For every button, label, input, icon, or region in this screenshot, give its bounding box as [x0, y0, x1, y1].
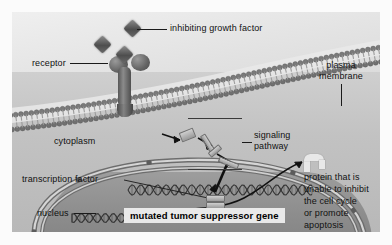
label-transcription-factor: transcription factor [22, 174, 98, 185]
growth-factor-leader [137, 29, 167, 30]
label-protein-line1: protein that is [304, 172, 360, 183]
label-protein-line3: the cell cycle [304, 196, 357, 207]
transcription-factor-icon [206, 195, 225, 202]
label-protein-line2: unable to inhibit [304, 184, 369, 195]
receptor-leader [70, 63, 108, 64]
plasma-membrane-leader [341, 84, 342, 106]
label-cytoplasm: cytoplasm [54, 136, 95, 147]
misfolded-protein-icon [304, 152, 328, 172]
label-nucleus: nucleus [37, 208, 69, 219]
signaling-pathway-leader [242, 142, 252, 143]
cell-signaling-diagram: inhibiting growth factor receptor plasma… [12, 12, 380, 232]
label-signaling-pathway-line2: pathway [254, 141, 288, 152]
label-plasma-membrane-line2: membrane [304, 71, 378, 82]
label-inhibiting-growth-factor: inhibiting growth factor [170, 23, 262, 34]
figure-root: inhibiting growth factor receptor plasma… [0, 0, 392, 245]
label-protein-line5: apoptosis [304, 220, 343, 231]
label-plasma-membrane-line1: plasma [310, 60, 372, 71]
signaling-pathway-bracket [188, 118, 242, 170]
caption-mutated-tumor-suppressor-gene: mutated tumor suppressor gene [124, 208, 285, 223]
nucleus-leader [74, 213, 96, 214]
label-signaling-pathway-line1: signaling [254, 130, 290, 141]
label-receptor: receptor [32, 58, 66, 69]
label-protein-line4: or promote [304, 208, 349, 219]
